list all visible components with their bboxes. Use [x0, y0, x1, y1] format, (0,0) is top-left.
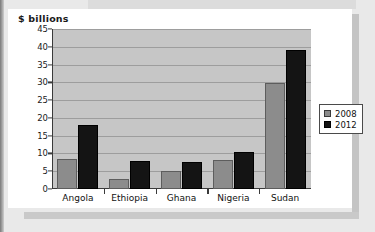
x-axis-label-ethiopia: Ethiopia	[111, 193, 148, 203]
chart-card: $ billions 454035302520151050 AngolaEthi…	[8, 9, 352, 208]
bar-angola-2008	[57, 159, 77, 189]
bar-sudan-2012	[286, 50, 306, 189]
bars-layer	[52, 29, 311, 189]
page-bottom-band	[24, 212, 359, 219]
page-top-band	[88, 0, 356, 9]
bar-group	[207, 29, 259, 189]
legend-item-2012: 2012	[324, 119, 357, 130]
bar-sudan-2008	[265, 83, 285, 189]
legend-label-2008: 2008	[335, 109, 357, 119]
chart-plot-wrapper: 454035302520151050 AngolaEthiopiaGhanaNi…	[8, 9, 352, 208]
legend-item-2008: 2008	[324, 108, 357, 119]
bar-nigeria-2008	[213, 160, 233, 189]
y-axis-tick-label: 40	[37, 42, 48, 52]
y-axis-tick-label: 10	[37, 148, 48, 158]
bar-nigeria-2012	[234, 152, 254, 189]
x-axis-label-ghana: Ghana	[167, 193, 196, 203]
black-square-swatch-icon	[324, 121, 331, 128]
bar-ghana-2008	[161, 171, 181, 189]
x-axis-labels: AngolaEthiopiaGhanaNigeriaSudan	[52, 193, 311, 207]
y-axis-tick-label: 15	[37, 131, 48, 141]
bar-group	[104, 29, 156, 189]
y-axis-tick-label: 45	[37, 24, 48, 34]
bar-angola-2012	[78, 125, 98, 189]
bar-group	[156, 29, 208, 189]
page-left-edge-strip	[0, 0, 4, 232]
gray-square-swatch-icon	[324, 110, 331, 117]
y-axis-labels: 454035302520151050	[24, 29, 48, 189]
y-axis-tick-label: 25	[37, 95, 48, 105]
x-axis-label-sudan: Sudan	[271, 193, 299, 203]
bar-group	[259, 29, 311, 189]
legend-label-2012: 2012	[335, 120, 357, 130]
x-axis-label-nigeria: Nigeria	[217, 193, 249, 203]
y-axis-tick-label: 30	[37, 77, 48, 87]
y-axis-tick-label: 35	[37, 60, 48, 70]
bar-ethiopia-2012	[130, 161, 150, 189]
y-axis-tick-label: 20	[37, 113, 48, 123]
chart-legend: 2008 2012	[319, 104, 363, 134]
bar-ghana-2012	[182, 162, 202, 189]
x-axis-label-angola: Angola	[62, 193, 93, 203]
bar-group	[52, 29, 104, 189]
bar-ethiopia-2008	[109, 179, 129, 189]
